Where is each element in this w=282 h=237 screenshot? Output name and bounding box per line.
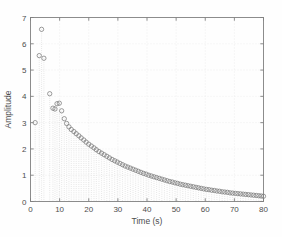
data-point-markers: [33, 27, 266, 198]
x-tick-label: 0: [28, 205, 33, 214]
x-tick-label: 10: [55, 205, 64, 214]
y-axis-label: Amplitude: [3, 90, 13, 128]
figure-container: 0102030405060708001234567Time (s)Amplitu…: [0, 0, 282, 237]
x-tick-label: 50: [172, 205, 181, 214]
x-tick-label: 70: [230, 205, 239, 214]
y-tick-label: 1: [22, 171, 27, 180]
y-tick-label: 4: [22, 92, 27, 101]
y-tick-label: 0: [22, 198, 27, 207]
x-tick-label: 20: [84, 205, 93, 214]
x-tick-label: 40: [143, 205, 152, 214]
figure-caption: [0, 219, 282, 237]
y-tick-label: 3: [22, 119, 27, 128]
y-tick-label: 5: [22, 66, 27, 75]
data-point: [48, 92, 52, 96]
x-tick-label: 30: [113, 205, 122, 214]
x-tick-label: 60: [201, 205, 210, 214]
y-tick-label: 7: [22, 14, 27, 23]
amplitude-vs-time-chart: 0102030405060708001234567Time (s)Amplitu…: [0, 0, 282, 237]
y-tick-label: 6: [22, 40, 27, 49]
y-tick-label: 2: [22, 145, 27, 154]
x-tick-label: 80: [259, 205, 268, 214]
